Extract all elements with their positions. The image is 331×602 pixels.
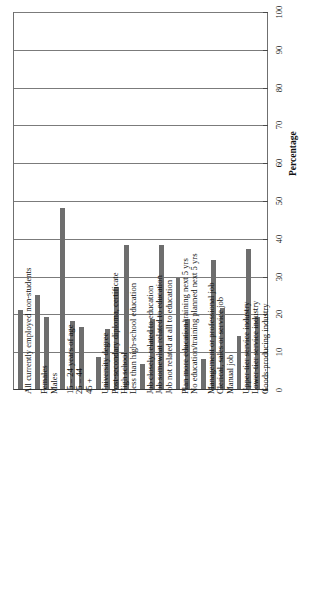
axis-title: Percentage (286, 86, 300, 176)
tick-label-40: 40 (273, 228, 285, 250)
gridline-100 (14, 12, 267, 13)
gridline-80 (14, 88, 267, 89)
tick-label-50: 50 (273, 190, 285, 212)
tick-label-60: 60 (273, 152, 285, 174)
tick-mark (263, 201, 268, 202)
category-label: No education/training planned next 5 yrs (188, 253, 200, 394)
gridline-20 (14, 314, 267, 315)
tick-label-10: 10 (273, 341, 285, 363)
gridline-50 (14, 201, 267, 202)
tick-label-100: 100 (273, 1, 285, 23)
tick-label-80: 80 (273, 77, 285, 99)
gridline-40 (14, 239, 267, 240)
category-label: Manual job (224, 355, 236, 394)
category-label: Job not related at all to education (163, 280, 175, 394)
gridline-60 (14, 163, 267, 164)
tick-mark (263, 239, 268, 240)
category-label: Less than high-school education (127, 283, 139, 394)
category-label: 45 + (83, 378, 95, 394)
gridline-10 (14, 352, 267, 353)
tick-mark (263, 50, 268, 51)
gridline-70 (14, 125, 267, 126)
tick-label-20: 20 (273, 303, 285, 325)
tick-mark (263, 163, 268, 164)
tick-mark (263, 125, 268, 126)
value-axis-ticks: 0102030405060708090100 (268, 0, 290, 400)
gridline-30 (14, 277, 267, 278)
chart-figure: 0102030405060708090100 Percentage All cu… (0, 0, 331, 602)
tick-mark (263, 88, 268, 89)
plot-area (13, 12, 268, 390)
tick-mark (263, 12, 268, 13)
tick-label-70: 70 (273, 114, 285, 136)
category-axis-labels: All currently employed non-studentsFemal… (0, 392, 331, 602)
category-label: Goods-producing industry (259, 304, 271, 394)
tick-mark (263, 277, 268, 278)
tick-label-30: 30 (273, 266, 285, 288)
category-label: Males (48, 373, 60, 394)
tick-label-90: 90 (273, 39, 285, 61)
category-label: All currently employed non-students (22, 268, 34, 394)
gridline-90 (14, 50, 267, 51)
